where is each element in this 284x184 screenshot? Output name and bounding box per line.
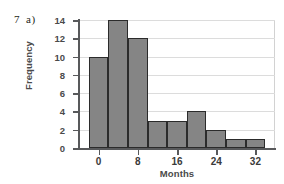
y-tick-label: 8 [60,69,65,80]
y-tick-label: 12 [54,33,65,44]
y-tick-mark [73,57,78,59]
x-tick-label: 32 [250,156,261,167]
y-tick-label: 4 [60,106,65,117]
y-tick-mark [73,111,78,113]
histogram-bar [108,20,128,148]
histogram-bar [128,38,148,148]
histogram-bar [206,130,226,148]
x-tick-mark [177,150,179,155]
x-tick-label: 0 [96,156,102,167]
histogram-bar [148,121,168,148]
histogram-bar [246,139,266,148]
y-tick-mark [73,148,78,150]
x-tick-label: 24 [211,156,222,167]
histogram-bar [226,139,246,148]
x-axis-title: Months [79,168,275,179]
y-axis-spine [78,19,80,149]
y-tick-label: 0 [60,143,65,154]
x-tick-label: 8 [135,156,141,167]
y-tick-label: 14 [54,15,65,26]
x-tick-mark [99,150,101,155]
y-tick-mark [73,38,78,40]
plot-area [79,20,275,148]
x-tick-mark [138,150,140,155]
x-tick-label: 16 [171,156,182,167]
y-tick-label: 10 [54,51,65,62]
y-tick-mark [73,20,78,22]
y-tick-mark [73,93,78,95]
y-tick-mark [73,75,78,77]
x-tick-mark [216,150,218,155]
y-axis-title: Frequency [23,16,34,116]
y-tick-mark [73,130,78,132]
y-tick-label: 2 [60,124,65,135]
x-tick-mark [255,150,257,155]
histogram-bar [89,57,109,148]
y-tick-label: 6 [60,88,65,99]
histogram-figure: Frequency Months 02468101214 08162432 [0,0,284,184]
histogram-bar [187,111,207,148]
histogram-bar [167,121,187,148]
